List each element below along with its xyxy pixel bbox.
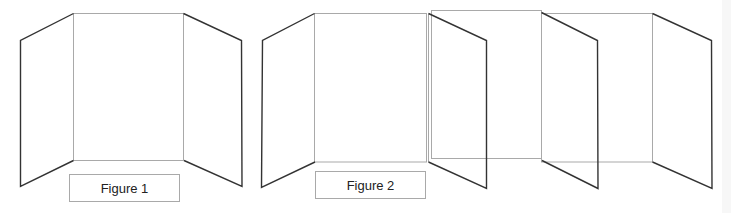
figure-2-caption-box: Figure 2: [316, 172, 426, 199]
figure-2-caption: Figure 2: [347, 178, 395, 193]
figure-1: Figure 1: [21, 14, 243, 202]
figure-1-center-panel: [74, 14, 184, 161]
figure-2-flap-a: [429, 14, 487, 189]
figure-1-right-flap: [184, 14, 243, 187]
figure-1-caption-box: Figure 1: [70, 175, 180, 202]
figure-1-caption: Figure 1: [101, 181, 149, 196]
figure-2-left-flap: [262, 14, 316, 188]
figure-2-center-panel: [315, 14, 427, 163]
diagram-canvas: Figure 1 Figure 2: [0, 0, 731, 213]
figure-2-flap-c: [653, 14, 713, 189]
figure-1-left-flap: [21, 14, 74, 187]
figure-2: Figure 2: [262, 11, 713, 199]
